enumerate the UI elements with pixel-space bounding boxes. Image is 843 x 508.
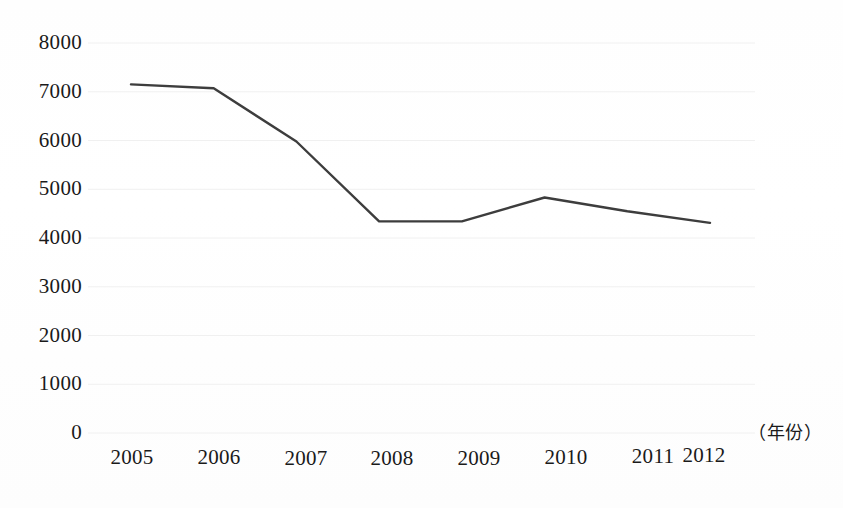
xtick-label-2006: 2006 bbox=[179, 447, 259, 468]
line-chart: 8000 7000 6000 5000 4000 3000 2000 1000 … bbox=[0, 0, 843, 508]
ytick-label-4000: 4000 bbox=[4, 227, 82, 248]
ytick-label-8000: 8000 bbox=[4, 32, 82, 53]
ytick-label-2000: 2000 bbox=[4, 325, 82, 346]
data-series-line bbox=[131, 84, 710, 223]
xtick-label-2007: 2007 bbox=[266, 448, 346, 469]
x-axis-title: （年份） bbox=[748, 423, 822, 443]
ytick-label-7000: 7000 bbox=[4, 81, 82, 102]
ytick-label-6000: 6000 bbox=[4, 130, 82, 151]
chart-plot-area bbox=[0, 0, 843, 508]
ytick-label-5000: 5000 bbox=[4, 178, 82, 199]
ytick-label-0: 0 bbox=[4, 422, 82, 443]
gridline-group bbox=[88, 43, 755, 433]
ytick-label-3000: 3000 bbox=[4, 276, 82, 297]
xtick-label-2010: 2010 bbox=[526, 447, 606, 468]
xtick-label-2012: 2012 bbox=[664, 445, 744, 466]
xtick-label-2008: 2008 bbox=[352, 448, 432, 469]
ytick-label-1000: 1000 bbox=[4, 373, 82, 394]
xtick-label-2009: 2009 bbox=[439, 448, 519, 469]
xtick-label-2005: 2005 bbox=[92, 447, 172, 468]
